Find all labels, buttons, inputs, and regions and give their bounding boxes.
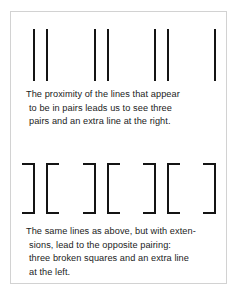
vertical-line-1 [33,29,35,81]
figure-card: The proximity of the lines that appear t… [10,11,227,284]
bracket-top-bar [143,163,156,165]
bracket-top-bar [203,163,216,165]
caption-top-line-2: to be in pairs leads us to see three [26,102,216,116]
bracket-bottom-bar [167,212,180,214]
bracket-close-3 [83,163,96,214]
caption-bottom-line-3: three broken squares and an extra line [26,252,216,266]
vertical-line-6 [167,29,169,81]
bracket-stem [167,163,169,214]
bracket-stem [214,163,216,214]
bracket-top-bar [83,163,96,165]
bracket-top-bar [46,163,59,165]
bracket-bottom-bar [107,212,120,214]
bracket-stem [94,163,96,214]
caption-top: The proximity of the lines that appear t… [26,88,216,129]
bracket-top-bar [22,163,35,165]
bracket-open-2 [46,163,59,214]
bracket-bottom-bar [22,212,35,214]
caption-top-line-3: pairs and an extra line at the right. [26,115,216,129]
vertical-line-5 [154,29,156,81]
bracket-close-7 [203,163,216,214]
bracket-close-5 [143,163,156,214]
caption-top-line-1: The proximity of the lines that appear [26,88,216,102]
bracket-bottom-bar [143,212,156,214]
bracket-top-bar [167,163,180,165]
bracket-stem [46,163,48,214]
bracket-open-6 [167,163,180,214]
bracket-bottom-bar [203,212,216,214]
caption-bottom: The same lines as above, but with exten-… [26,225,216,279]
caption-bottom-line-2: sions, lead to the opposite pairing: [26,239,216,253]
bracket-bottom-bar [46,212,59,214]
vertical-line-4 [107,29,109,81]
bracket-stem [107,163,109,214]
bracket-top-bar [107,163,120,165]
vertical-line-3 [94,29,96,81]
vertical-line-7 [214,29,216,81]
bracket-close-1 [22,163,35,214]
bracket-stem [33,163,35,214]
vertical-line-2 [46,29,48,81]
bracket-open-4 [107,163,120,214]
bracket-bottom-bar [83,212,96,214]
caption-bottom-line-1: The same lines as above, but with exten- [26,225,216,239]
bracket-stem [154,163,156,214]
caption-bottom-line-4: at the left. [26,266,216,280]
